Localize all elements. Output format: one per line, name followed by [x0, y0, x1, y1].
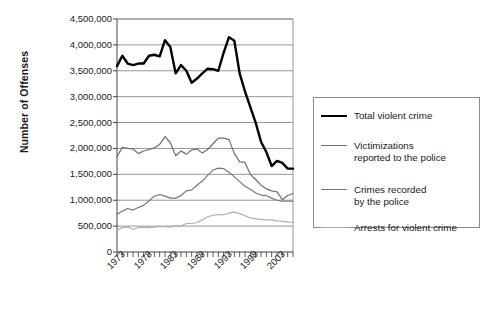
- legend-label: Crimes recorded by the police: [354, 184, 426, 207]
- x-tick-label: 1983: [158, 249, 180, 271]
- x-tick-label: 1973: [105, 249, 127, 271]
- x-tick-label: 1978: [132, 249, 154, 271]
- legend-swatch-icon: [321, 110, 347, 121]
- x-tick-label: 1993: [212, 249, 234, 271]
- legend-item[interactable]: Victimizations reported to the police: [321, 140, 446, 163]
- legend-item[interactable]: Arrests for violent crime: [321, 222, 457, 234]
- x-tick-label: 2003: [265, 249, 287, 271]
- legend-label: Victimizations reported to the police: [354, 140, 446, 163]
- legend-swatch-icon: [321, 184, 347, 195]
- legend-item[interactable]: Crimes recorded by the police: [321, 184, 426, 207]
- legend-label: Arrests for violent crime: [354, 222, 457, 234]
- x-tick-label: 1988: [185, 249, 207, 271]
- chart-legend: Total violent crimeVictimizations report…: [313, 97, 480, 228]
- legend-label: Total violent crime: [354, 110, 432, 122]
- chart-figure: Number of Offenses 4,500,0004,000,0003,5…: [0, 0, 491, 314]
- legend-item[interactable]: Total violent crime: [321, 110, 432, 122]
- x-tick-label: 1998: [238, 249, 260, 271]
- legend-swatch-icon: [321, 222, 347, 233]
- legend-swatch-icon: [321, 140, 347, 151]
